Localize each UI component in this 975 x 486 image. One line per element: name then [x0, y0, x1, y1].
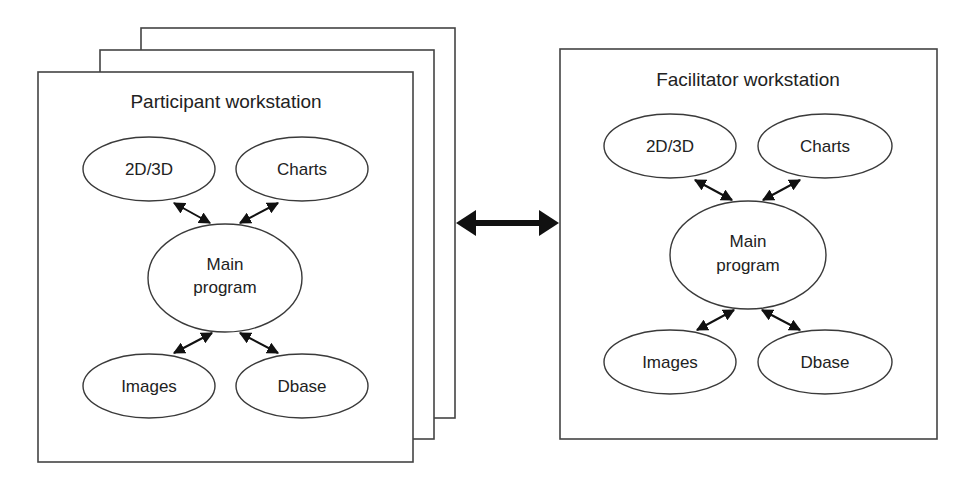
participant-workstation-group: Participant workstation 2D/3D Charts Mai…: [38, 28, 455, 462]
arrowhead-right-icon: [539, 210, 559, 236]
arrowhead-left-icon: [456, 210, 476, 236]
node-label: Images: [642, 353, 698, 372]
facilitator-title: Facilitator workstation: [656, 69, 840, 90]
node-label-line1: Main: [730, 232, 767, 251]
facilitator-node-2d3d: 2D/3D: [604, 114, 736, 178]
participant-node-dbase: Dbase: [236, 354, 368, 418]
node-label-line2: program: [193, 278, 256, 297]
node-label: Dbase: [277, 377, 326, 396]
node-label: Images: [121, 377, 177, 396]
facilitator-node-charts: Charts: [758, 114, 892, 178]
participant-node-images: Images: [83, 354, 215, 418]
node-label-line2: program: [716, 256, 779, 275]
workstation-link-arrow: [456, 210, 559, 236]
node-label: Charts: [800, 137, 850, 156]
participant-node-main-program: Main program: [148, 224, 302, 332]
facilitator-node-dbase: Dbase: [758, 330, 892, 394]
participant-node-charts: Charts: [236, 137, 368, 201]
facilitator-node-main-program: Main program: [670, 201, 826, 309]
participant-title: Participant workstation: [130, 91, 321, 112]
facilitator-workstation-group: Facilitator workstation 2D/3D Charts Mai…: [560, 49, 937, 439]
node-label: Dbase: [800, 353, 849, 372]
participant-node-2d3d: 2D/3D: [83, 137, 215, 201]
facilitator-node-images: Images: [604, 330, 736, 394]
node-label: Charts: [277, 160, 327, 179]
node-label: 2D/3D: [125, 160, 173, 179]
node-label: 2D/3D: [646, 137, 694, 156]
node-label-line1: Main: [207, 255, 244, 274]
workstation-diagram: Participant workstation 2D/3D Charts Mai…: [0, 0, 975, 486]
